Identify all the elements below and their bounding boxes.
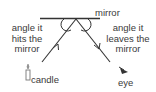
incident-ray: [42, 19, 76, 62]
incident-angle-label: angle it hits the mirror: [8, 23, 46, 55]
incident-angle-label-line-1: angle it: [8, 23, 46, 34]
reflected-angle-label: angle it leaves the mirror: [103, 23, 153, 55]
incident-angle-label-line-3: mirror: [8, 44, 46, 55]
reflected-angle-arc: [81, 19, 91, 31]
mirror-label: mirror: [95, 8, 120, 19]
reflected-angle-label-line-3: mirror: [103, 44, 153, 55]
eye-label: eye: [118, 78, 133, 89]
candle-label: candle: [31, 75, 59, 86]
incident-angle-arc: [61, 19, 71, 31]
candle-icon: [26, 64, 30, 80]
reflected-angle-label-line-1: angle it: [103, 23, 153, 34]
eye-icon: [119, 67, 128, 74]
